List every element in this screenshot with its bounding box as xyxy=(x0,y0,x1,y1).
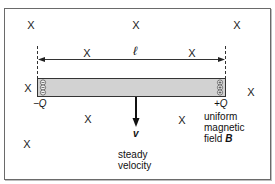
field-marker: X xyxy=(188,48,195,59)
positive-charges xyxy=(217,80,222,95)
charged-rod xyxy=(38,79,226,97)
field-caption-line1: uniform xyxy=(204,112,237,123)
negative-charge-label: −Q xyxy=(33,99,47,110)
negative-charges xyxy=(40,80,45,95)
positive-charge-label: +Q xyxy=(214,99,228,110)
field-marker: X xyxy=(84,114,91,125)
field-marker: X xyxy=(24,83,31,94)
field-marker: X xyxy=(83,48,90,59)
field-caption-line2: magnetic xyxy=(204,123,245,134)
length-arrowhead-right xyxy=(218,57,225,62)
field-marker: X xyxy=(247,87,254,98)
velocity-caption-line1: steady xyxy=(118,150,147,161)
length-arrowhead-left xyxy=(38,57,45,62)
field-marker: X xyxy=(27,20,34,31)
field-marker: X xyxy=(132,20,139,31)
field-caption-text: field xyxy=(204,133,225,144)
field-caption-line3: field B xyxy=(204,134,232,145)
velocity-arrowhead xyxy=(133,118,140,127)
velocity-caption-line2: velocity xyxy=(118,161,151,172)
field-marker: X xyxy=(23,139,30,150)
field-marker: X xyxy=(233,20,240,31)
velocity-symbol: v xyxy=(133,129,139,140)
field-symbol-b: B xyxy=(225,133,232,144)
length-label: ℓ xyxy=(133,45,137,58)
field-marker: X xyxy=(178,115,185,126)
